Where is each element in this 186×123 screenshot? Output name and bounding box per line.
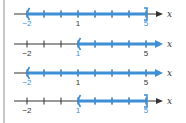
tick-label: 1: [76, 49, 81, 58]
tick-label: 1: [76, 106, 81, 115]
tick-label: −2: [22, 49, 32, 58]
axis-variable-label: x: [167, 68, 172, 78]
tick-label: 1: [76, 78, 81, 87]
axis-variable-label: x: [167, 96, 172, 106]
number-line-3: x−215: [14, 67, 172, 87]
tick-label: 5: [144, 19, 149, 28]
tick-label: −2: [22, 78, 32, 87]
tick-label: 5: [144, 106, 149, 115]
tick-label: 5: [144, 49, 149, 58]
axis-arrow-icon: [156, 98, 163, 104]
number-lines-diagram: x−215x−215x−215x−215: [0, 0, 186, 123]
ray-arrow-icon: [155, 40, 163, 48]
tick-label: −2: [22, 19, 32, 28]
tick-label: 5: [144, 78, 149, 87]
number-line-2: x−215: [14, 38, 172, 58]
axis-variable-label: x: [167, 9, 172, 19]
tick-label: 1: [76, 19, 81, 28]
ray-arrow-icon: [155, 69, 163, 77]
number-line-4: x−215: [14, 95, 172, 115]
tick-label: −2: [22, 106, 32, 115]
axis-variable-label: x: [167, 39, 172, 49]
axis-arrow-icon: [156, 11, 163, 17]
number-line-1: x−215: [14, 8, 172, 28]
